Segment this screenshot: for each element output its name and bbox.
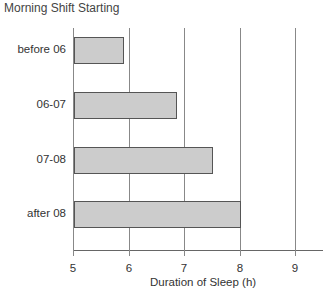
category-label: after 08 xyxy=(27,207,66,219)
bar-06-07 xyxy=(74,92,177,119)
bar-after-08 xyxy=(74,201,241,228)
x-tick-label: 9 xyxy=(292,262,298,274)
bar-chart: Morning Shift Starting Duration of Sleep… xyxy=(0,0,336,301)
bar-before-06 xyxy=(74,37,124,64)
x-tick-label: 6 xyxy=(126,262,132,274)
category-label: before 06 xyxy=(17,43,66,55)
x-axis-line xyxy=(73,250,323,251)
x-tick-label: 5 xyxy=(70,262,76,274)
gridline-9 xyxy=(295,28,296,256)
chart-title: Morning Shift Starting xyxy=(4,1,119,15)
x-tick-label: 8 xyxy=(237,262,243,274)
category-label: 06-07 xyxy=(37,98,66,110)
category-label: 07-08 xyxy=(37,153,66,165)
x-tick-label: 7 xyxy=(181,262,187,274)
x-axis-label: Duration of Sleep (h) xyxy=(150,276,256,288)
bar-07-08 xyxy=(74,147,213,174)
